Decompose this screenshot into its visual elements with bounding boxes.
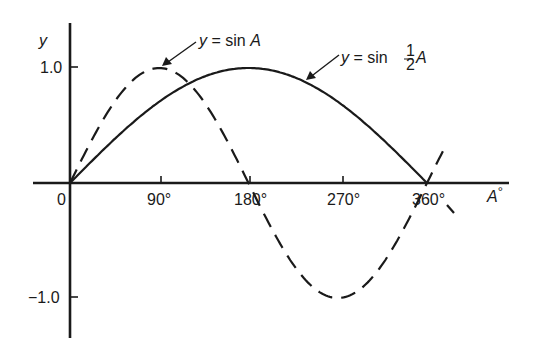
arrowhead-icon: [162, 57, 172, 66]
curve-sin-a-tail: [447, 205, 454, 213]
annotation-sin-half-a-var: A: [415, 49, 427, 66]
annotation-sin-a: y = sin A: [198, 32, 261, 49]
sine-graph: y A° 0 90° 180° 270° 360° 1.0 −1.0 y = s…: [0, 0, 537, 363]
y-tick-label-neg: −1.0: [28, 289, 60, 306]
arrowhead-icon: [306, 71, 316, 80]
x-tick-label-180: 180°: [234, 191, 267, 208]
y-axis-label: y: [38, 32, 48, 49]
x-axis-label: A°: [486, 184, 503, 205]
x-tick-label-270: 270°: [327, 191, 360, 208]
fraction-denominator: 2: [406, 56, 415, 73]
annotation-sin-half-a: y = sin: [340, 49, 388, 66]
annotation-arrow-sin-a: [168, 42, 196, 62]
curve-sin-half-a: [70, 68, 427, 183]
annotation-arrow-sin-half-a: [313, 55, 339, 75]
x-tick-label-360: 360°: [412, 191, 445, 208]
x-tick-label-0: 0: [57, 191, 66, 208]
y-tick-label-pos: 1.0: [40, 59, 62, 76]
x-tick-label-90: 90°: [147, 191, 171, 208]
